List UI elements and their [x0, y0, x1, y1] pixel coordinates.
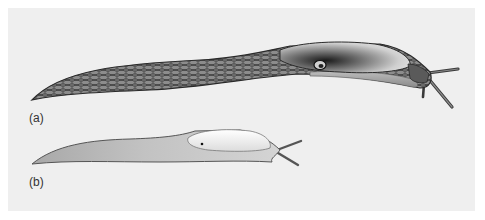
slug-b	[32, 130, 301, 165]
slug-a-pneumostome	[314, 61, 326, 70]
slug-b-pneumostome	[201, 143, 204, 146]
slug-illustrations	[0, 0, 485, 220]
slug-b-mantle	[188, 130, 271, 152]
slug-a	[32, 42, 458, 107]
slug-b-tentacles	[277, 141, 301, 165]
panel-label-a: (a)	[29, 111, 44, 125]
panel-label-b: (b)	[29, 175, 44, 189]
